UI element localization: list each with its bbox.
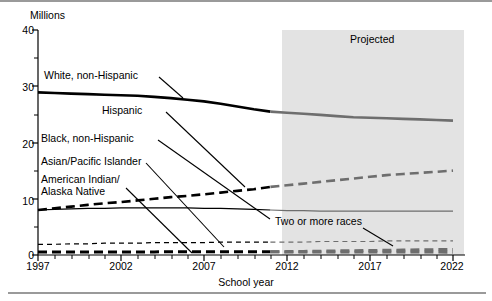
series-label-hispanic: Hispanic [102,104,142,117]
series-label-two-or-more: Two or more races [275,215,362,228]
chart-figure: Millions School year 40 30 20 10 0 1997 … [0,0,492,301]
series-label-asian: Asian/Pacific Islander [41,155,141,168]
leader-asian [146,163,224,247]
leader-hispanic [166,112,245,187]
leader-black [158,140,270,219]
y-major-ticks [32,30,38,255]
series-label-white: White, non-Hispanic [44,69,138,82]
series-label-black: Black, non-Hispanic [41,132,134,145]
projected-label: Projected [350,33,394,45]
x-ticks [38,255,453,261]
series-label-aian-line1: American Indian/ [41,173,120,186]
leader-white [159,77,183,98]
leader-aian [126,188,192,253]
plot-canvas [0,0,492,301]
series-label-aian-line2: Alaska Native [41,185,105,198]
